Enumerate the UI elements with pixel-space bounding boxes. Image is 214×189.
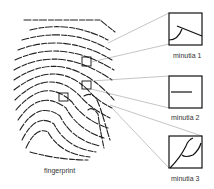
fingerprint-diagram [0,0,214,189]
minutia-3-label: minutia 3 [171,175,199,182]
leader-lines [91,13,202,168]
fingerprint-label: fingerprint [44,167,75,174]
minutia-1-box [169,13,202,45]
minutia-2-label: minutia 2 [171,114,199,121]
minutia-3-box [169,136,202,168]
minutia-1-label: minutia 1 [173,52,201,59]
minutia-2-box [169,76,202,108]
fingerprint-image [14,20,115,160]
